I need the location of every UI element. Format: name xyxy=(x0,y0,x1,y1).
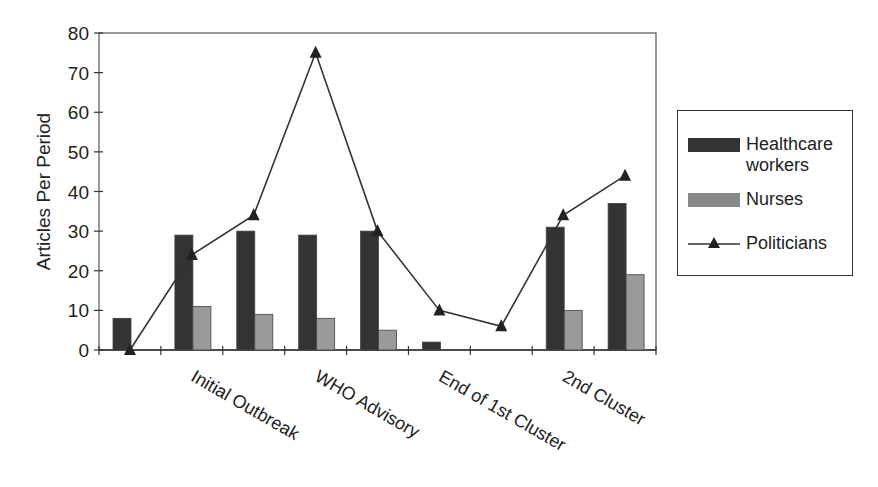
y-tick-label: 30 xyxy=(68,221,89,242)
triangle-marker-icon xyxy=(248,208,260,220)
bar-nurses xyxy=(626,275,644,350)
y-tick-label: 40 xyxy=(68,182,89,203)
y-tick-label: 80 xyxy=(68,23,89,44)
bar-healthcare-workers xyxy=(546,227,564,350)
legend-swatch-dark xyxy=(688,138,740,152)
bar-healthcare-workers xyxy=(361,231,379,350)
triangle-marker-icon xyxy=(310,46,322,58)
triangle-marker-icon xyxy=(619,169,631,181)
legend-label: workers xyxy=(746,155,833,176)
legend-label: Politicians xyxy=(746,233,827,254)
triangle-marker-icon xyxy=(372,224,384,236)
x-tick-label: 2nd Cluster xyxy=(559,366,649,429)
bar-healthcare-workers xyxy=(608,203,626,350)
bar-nurses xyxy=(193,306,211,350)
x-tick-label: WHO Advisory xyxy=(312,366,423,442)
x-tick-label: End of 1st Cluster xyxy=(435,366,569,455)
bar-healthcare-workers xyxy=(422,342,440,350)
legend: Healthcare workers Nurses Politicians xyxy=(677,110,853,276)
x-tick-label: Initial Outbreak xyxy=(188,366,304,444)
legend-swatch-gray xyxy=(688,193,740,207)
triangle-marker-icon xyxy=(557,208,569,220)
y-axis-label: Articles Per Period xyxy=(33,113,54,270)
bar-healthcare-workers xyxy=(113,318,131,350)
bar-nurses xyxy=(564,310,582,350)
bar-healthcare-workers xyxy=(237,231,255,350)
legend-item-politicians: Politicians xyxy=(688,233,827,254)
y-tick-label: 70 xyxy=(68,63,89,84)
y-tick-label: 10 xyxy=(68,300,89,321)
bar-healthcare-workers xyxy=(299,235,317,350)
y-tick-label: 0 xyxy=(78,340,89,361)
y-tick-label: 60 xyxy=(68,102,89,123)
bar-nurses xyxy=(317,318,335,350)
legend-label: Healthcare xyxy=(746,134,833,155)
legend-item-nurses: Nurses xyxy=(688,189,803,210)
bar-nurses xyxy=(255,314,273,350)
y-tick-label: 20 xyxy=(68,261,89,282)
triangle-line-icon xyxy=(688,233,740,253)
y-tick-label: 50 xyxy=(68,142,89,163)
bar-nurses xyxy=(379,330,397,350)
legend-label: Nurses xyxy=(746,189,803,210)
legend-item-healthcare-workers: Healthcare workers xyxy=(688,134,833,176)
